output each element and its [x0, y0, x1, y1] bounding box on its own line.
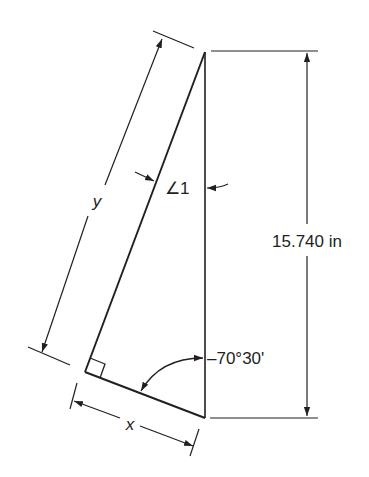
x-right-extension: [190, 429, 199, 456]
triangle: [85, 52, 205, 418]
bottom-angle-label: –70°30': [207, 349, 264, 368]
y-dimension-line-lower: [42, 216, 88, 352]
y-dimension-line-upper: [105, 39, 162, 185]
y-dimension-label: y: [92, 192, 103, 211]
hypotenuse-dimension: [28, 31, 194, 365]
x-left-extension: [70, 383, 77, 409]
angle-one-left-arrow: [135, 172, 154, 181]
angle-one-right-arrow: [207, 184, 228, 188]
x-dimension-label: x: [125, 415, 135, 434]
base-dimension: [70, 383, 199, 456]
y-bottom-extension: [28, 347, 70, 365]
angle-one-label: ∠1: [165, 179, 189, 198]
x-dimension-line-left: [74, 401, 120, 418]
vertical-dimension-label: 15.740 in: [272, 232, 342, 251]
hypotenuse-side-y: [85, 52, 205, 372]
triangle-diagram: 15.740 in y x ∠1 –70°30': [0, 0, 369, 477]
angle-arc: [141, 358, 203, 391]
x-dimension-line-right: [140, 426, 193, 446]
bottom-angle-indicator: [141, 358, 203, 391]
